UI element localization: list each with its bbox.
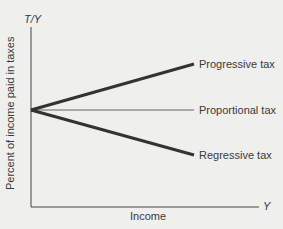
regressive-tax-line <box>31 110 194 155</box>
y-axis-symbol: T/Y <box>24 13 41 25</box>
progressive-tax-line <box>31 64 194 110</box>
x-axis-symbol: Y <box>263 200 270 212</box>
regressive-tax-label: Regressive tax <box>199 149 272 161</box>
y-axis-label: Percent of income paid in taxes <box>4 37 16 190</box>
x-axis-label: Income <box>130 210 166 222</box>
proportional-tax-label: Proportional tax <box>199 104 276 116</box>
progressive-tax-label: Progressive tax <box>199 58 275 70</box>
